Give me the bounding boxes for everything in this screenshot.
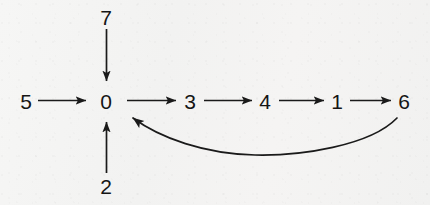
node-3[interactable]: 3 xyxy=(184,91,196,112)
node-6[interactable]: 6 xyxy=(398,91,410,112)
node-7[interactable]: 7 xyxy=(100,7,112,28)
graph-edges-layer xyxy=(0,0,430,205)
node-2[interactable]: 2 xyxy=(100,176,112,197)
edge-6-to-0-curved xyxy=(133,118,397,155)
node-1[interactable]: 1 xyxy=(331,91,343,112)
node-0[interactable]: 0 xyxy=(100,91,112,112)
node-4[interactable]: 4 xyxy=(259,91,271,112)
node-5[interactable]: 5 xyxy=(20,91,32,112)
diagram-canvas: 5 0 3 4 1 6 7 2 xyxy=(0,0,430,205)
